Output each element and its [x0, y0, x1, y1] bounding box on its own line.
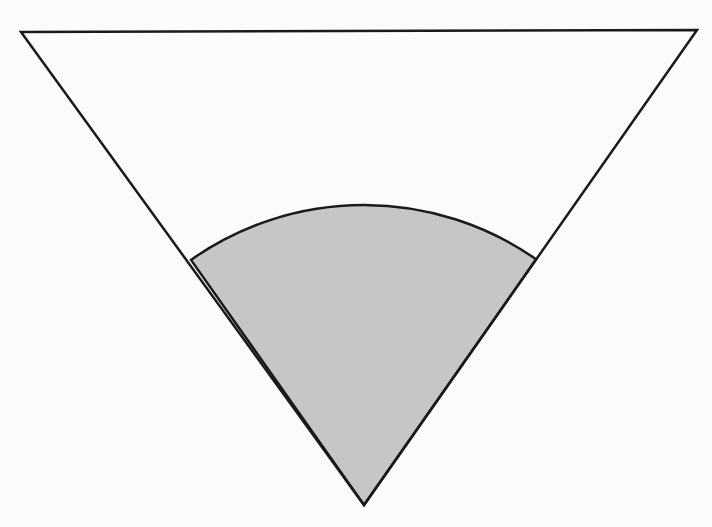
triangle-sector-diagram — [0, 0, 712, 527]
shaded-sector — [191, 205, 536, 505]
